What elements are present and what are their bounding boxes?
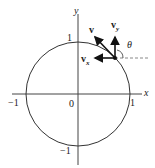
unit-circle-diagram — [0, 0, 155, 168]
vector-v-label: v — [89, 25, 94, 35]
y-axis-label: y — [74, 6, 78, 16]
velocity-vector-v — [95, 37, 115, 58]
angle-theta-label: θ — [127, 40, 132, 50]
tick-x-neg: −1 — [8, 98, 19, 108]
vector-vy-label: vy — [111, 20, 119, 33]
tick-x-pos: 1 — [130, 98, 135, 108]
angle-arc — [117, 50, 123, 58]
x-axis-label: x — [144, 88, 148, 98]
vector-vx-label: vx — [81, 54, 90, 67]
origin-label: 0 — [69, 99, 74, 109]
tick-y-pos: 1 — [67, 33, 72, 43]
tick-y-neg: −1 — [60, 146, 71, 156]
point-on-circle — [113, 56, 117, 60]
